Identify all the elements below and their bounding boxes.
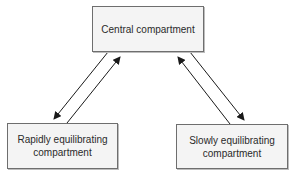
arrow-central-to-rapid <box>54 52 108 119</box>
slow-compartment-label-line1: Slowly equilibrating <box>189 134 275 147</box>
slow-compartment-label-line2: compartment <box>189 147 275 160</box>
rapid-compartment-label-line1: Rapidly equilibrating <box>17 133 107 146</box>
slowly-equilibrating-compartment-box: Slowly equilibrating compartment <box>176 124 288 169</box>
arrow-slow-to-central <box>178 57 230 124</box>
arrow-rapid-to-central <box>67 57 120 123</box>
rapid-compartment-label-line2: compartment <box>17 146 107 159</box>
rapidly-equilibrating-compartment-box: Rapidly equilibrating compartment <box>7 123 118 169</box>
arrow-central-to-slow <box>190 52 244 120</box>
central-compartment-box: Central compartment <box>92 6 204 52</box>
central-compartment-label: Central compartment <box>101 23 194 36</box>
